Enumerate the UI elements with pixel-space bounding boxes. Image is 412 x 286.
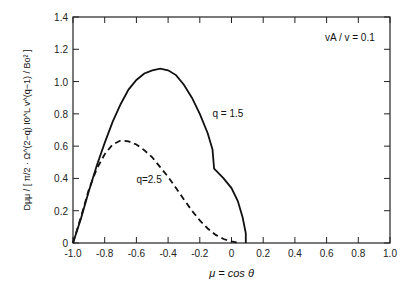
y-tick-label: 0	[62, 238, 68, 249]
curve-label: q=2.5	[136, 174, 162, 185]
series-q15	[73, 69, 246, 243]
curve-label: q = 1.5	[212, 108, 243, 119]
x-tick-label: -1.0	[64, 248, 82, 259]
x-tick-label: 1.0	[383, 248, 397, 259]
y-tick-label: 1.2	[54, 44, 68, 55]
y-tick-label: 0.2	[54, 206, 68, 217]
x-axis-label: μ = cos θ	[208, 267, 254, 279]
y-tick-label: 0.8	[54, 109, 68, 120]
series-q25	[73, 141, 239, 244]
axis-ticks: -1.0-0.8-0.6-0.4-0.200.20.40.60.81.000.2…	[54, 12, 397, 259]
x-tick-label: 0	[229, 248, 235, 259]
x-tick-label: -0.8	[96, 248, 114, 259]
y-tick-label: 0.4	[54, 173, 68, 184]
annotation: vA / v = 0.1	[325, 32, 375, 43]
y-axis-label: Dμμ / [ π/2 · Ω^(2−q) I0^L v^(q−1) / Bo²…	[22, 49, 32, 210]
x-tick-label: 0.2	[256, 248, 270, 259]
x-tick-label: -0.4	[159, 248, 177, 259]
plot-frame	[73, 17, 390, 243]
x-tick-label: 0.4	[288, 248, 302, 259]
chart: -1.0-0.8-0.6-0.4-0.200.20.40.60.81.000.2…	[0, 0, 412, 286]
labels: q = 1.5q=2.5vA / v = 0.1μ = cos θDμμ / […	[22, 32, 375, 279]
x-tick-label: 0.6	[320, 248, 334, 259]
y-tick-label: 1.0	[54, 77, 68, 88]
x-tick-label: 0.8	[351, 248, 365, 259]
y-tick-label: 0.6	[54, 141, 68, 152]
plot-area	[73, 17, 390, 243]
x-tick-label: -0.6	[128, 248, 146, 259]
y-tick-label: 1.4	[54, 12, 68, 23]
curves	[73, 69, 246, 243]
x-tick-label: -0.2	[191, 248, 209, 259]
